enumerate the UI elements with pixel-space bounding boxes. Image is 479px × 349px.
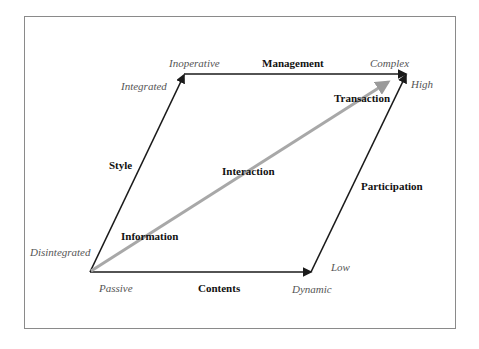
passive-label: Passive	[99, 283, 133, 294]
transaction-label: Transaction	[334, 93, 390, 104]
high-label: High	[411, 79, 433, 90]
style-label: Style	[109, 160, 132, 171]
complex-label: Complex	[370, 58, 409, 69]
inoperative-label: Inoperative	[169, 58, 220, 69]
information-label: Information	[121, 231, 178, 242]
integrated-label: Integrated	[121, 81, 167, 92]
dynamic-label: Dynamic	[292, 284, 332, 295]
interaction-label: Interaction	[222, 166, 275, 177]
disintegrated-label: Disintegrated	[30, 247, 91, 258]
contents-label: Contents	[198, 283, 240, 294]
management-label: Management	[262, 58, 324, 69]
low-label: Low	[331, 262, 350, 273]
participation-label: Participation	[361, 181, 423, 192]
participation-edge	[311, 75, 406, 272]
